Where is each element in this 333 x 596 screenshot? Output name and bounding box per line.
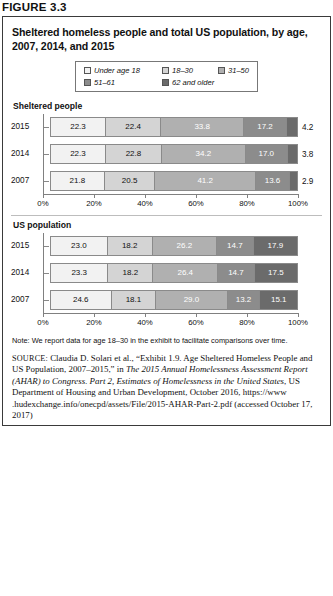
axis-tick-mark — [196, 313, 197, 317]
axis-tick-label: 80% — [239, 199, 255, 208]
bar-segment: 23.0 — [50, 236, 108, 256]
x-axis: 0%20%40%60%80%100% — [43, 194, 322, 211]
legend-label: 62 and older — [172, 78, 214, 87]
legend-swatch-icon — [84, 67, 91, 74]
axis-tick: 80% — [247, 313, 248, 317]
bar-segment-value: 26.4 — [177, 269, 193, 277]
bar-segment-value: 17.5 — [268, 269, 284, 277]
y-axis-line — [43, 233, 44, 314]
bar-segment: 29.0 — [156, 290, 227, 310]
bar-segment: 13.6 — [256, 171, 290, 191]
bar-segment: 34.2 — [162, 144, 246, 164]
bar-segment-value: 18.1 — [126, 296, 142, 304]
figure-page: FIGURE 3.3 Sheltered homeless people and… — [0, 0, 333, 596]
legend-item-18-30: 18–30 — [162, 66, 218, 75]
legend-item-62-older: 62 and older — [162, 78, 214, 87]
axis-tick-mark — [43, 313, 44, 317]
bar-segment-value: 22.4 — [125, 123, 141, 131]
bar-segment — [288, 144, 298, 164]
legend-swatch-icon — [162, 67, 169, 74]
chart-panel-sheltered-people: Sheltered people 22.322.433.817.24.222.3… — [3, 99, 330, 211]
bar-segment-value: 33.8 — [194, 123, 210, 131]
chart-heading: Sheltered people — [11, 99, 322, 114]
bar-segment: 18.1 — [112, 290, 157, 310]
bar-segment: 26.2 — [153, 236, 217, 256]
y-axis-line — [43, 114, 44, 195]
axis-tick-mark — [196, 194, 197, 198]
axis-tick: 20% — [94, 313, 95, 317]
legend: Under age 18 18–30 31–50 51–61 — [75, 61, 258, 92]
bar-segment: 22.4 — [106, 117, 161, 137]
legend-swatch-icon — [162, 79, 169, 86]
bar-rows: 23.018.226.214.717.923.318.226.414.717.5… — [43, 233, 322, 313]
bar-segment-value: 21.8 — [70, 177, 86, 185]
axis-tick-mark — [145, 194, 146, 198]
axis-tick-mark — [145, 313, 146, 317]
axis-tick-label: 0% — [37, 318, 48, 327]
row-year-label: 2015 — [11, 122, 35, 131]
bar-segment-value: 24.6 — [73, 296, 89, 304]
bar-segment-value: 17.9 — [268, 242, 284, 250]
bar-segment: 15.1 — [260, 290, 298, 310]
axis-tick: 20% — [94, 194, 95, 198]
axis-tick-mark — [247, 313, 248, 317]
bar-segment-value: 29.0 — [184, 296, 200, 304]
axis-tick-label: 40% — [137, 199, 153, 208]
bar-segment: 33.8 — [161, 117, 244, 137]
legend-label: Under age 18 — [94, 66, 140, 75]
bar-segment-value: 13.6 — [265, 177, 281, 185]
row-year-label: 2015 — [11, 241, 35, 250]
legend-label: 31–50 — [228, 66, 249, 75]
legend-row-2: 51–61 62 and older — [84, 78, 249, 87]
source-tag: SOURCE: — [12, 354, 48, 363]
figure-title: Sheltered homeless people and total US p… — [3, 17, 330, 61]
bar-segment: 22.3 — [50, 117, 106, 137]
bar-segment-value: 14.7 — [227, 242, 243, 250]
legend-item-51-61: 51–61 — [84, 78, 162, 87]
bar-segment — [287, 117, 298, 137]
stacked-bar: 21.820.541.213.6 — [50, 171, 298, 191]
axis-tick-mark — [247, 194, 248, 198]
bar-segment: 14.7 — [218, 263, 255, 283]
bar-segment: 22.8 — [106, 144, 162, 164]
plot-area: 22.322.433.817.24.222.322.834.217.03.821… — [11, 114, 322, 211]
bar-segment-value: 18.2 — [123, 269, 139, 277]
figure-note: Note: We report data for age 18–30 in th… — [3, 330, 330, 346]
bar-row: 21.820.541.213.62.9 — [43, 168, 322, 194]
bar-segment: 21.8 — [50, 171, 105, 191]
bar-segment-value: 41.2 — [197, 177, 213, 185]
stacked-bar: 23.318.226.414.717.5 — [50, 263, 298, 283]
bar-segment: 23.3 — [50, 263, 108, 283]
bar-segment: 17.0 — [246, 144, 288, 164]
axis-tick: 40% — [145, 313, 146, 317]
bar-segment: 18.2 — [108, 263, 153, 283]
bar-segment-value: 26.2 — [177, 242, 193, 250]
axis-tick-mark — [94, 313, 95, 317]
row-year-label: 2014 — [11, 149, 35, 158]
axis-tick: 0% — [43, 313, 44, 317]
legend-row-1: Under age 18 18–30 31–50 — [84, 66, 249, 75]
axis-tick: 40% — [145, 194, 146, 198]
row-year-label: 2007 — [11, 295, 35, 304]
bar-row: 23.318.226.414.717.5 — [43, 260, 322, 286]
axis-tick-label: 0% — [37, 199, 48, 208]
chart-heading: US population — [11, 218, 322, 233]
row-year-label: 2007 — [11, 176, 35, 185]
bar-segment-value: 15.1 — [271, 296, 287, 304]
legend-label: 18–30 — [172, 66, 193, 75]
x-axis: 0%20%40%60%80%100% — [43, 313, 322, 330]
axis-tick-label: 100% — [288, 199, 308, 208]
bar-segment-value: 22.3 — [70, 123, 86, 131]
bar-segment: 26.4 — [153, 263, 218, 283]
bar-row: 24.618.129.013.215.1 — [43, 287, 322, 313]
bar-outside-value: 2.9 — [302, 177, 322, 186]
bar-segment: 20.5 — [105, 171, 156, 191]
x-axis-ticks: 0%20%40%60%80%100% — [43, 194, 298, 211]
bar-segment-value: 20.5 — [122, 177, 138, 185]
bar-segment: 17.5 — [255, 263, 298, 283]
bar-segment: 14.7 — [217, 236, 254, 256]
legend-swatch-icon — [218, 67, 225, 74]
axis-tick: 0% — [43, 194, 44, 198]
bar-segment-value: 22.3 — [70, 150, 86, 158]
bar-row: 22.322.433.817.24.2 — [43, 114, 322, 140]
